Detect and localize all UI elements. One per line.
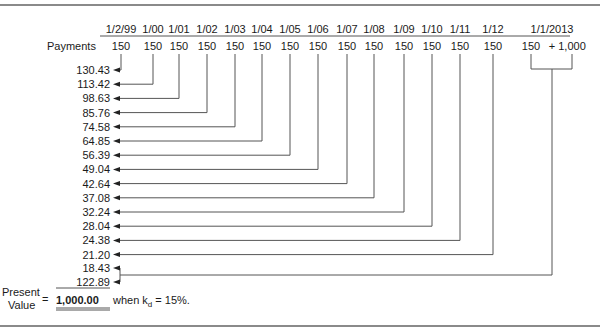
- date-label: 1/12: [482, 23, 503, 35]
- date-label: 1/09: [393, 23, 414, 35]
- pv-value: 64.85: [50, 135, 110, 147]
- date-label: 1/10: [421, 23, 442, 35]
- payment-amount: 150: [198, 40, 216, 52]
- date-label: 1/02: [196, 23, 217, 35]
- date-label: 1/2/99: [106, 23, 137, 35]
- payment-amount: 150: [484, 40, 502, 52]
- pv-value: 37.08: [50, 192, 110, 204]
- pv-value: 21.20: [50, 249, 110, 261]
- pv-value: 85.76: [50, 107, 110, 119]
- pv-final-coupon: 18.43: [50, 262, 110, 274]
- pv-value: 24.38: [50, 234, 110, 246]
- date-label: 1/07: [336, 23, 357, 35]
- date-label: 1/03: [224, 23, 245, 35]
- final-plus: +: [549, 40, 555, 52]
- date-label: 1/04: [251, 23, 272, 35]
- pv-final-principal: 122.89: [50, 276, 110, 288]
- rate-condition: when kd = 15%.: [113, 294, 190, 311]
- present-value-total: 1,000.00: [56, 294, 99, 306]
- payment-amount: 150: [281, 40, 299, 52]
- payment-amount: 150: [309, 40, 327, 52]
- present-value-label-1: Present: [2, 286, 40, 298]
- payment-amount: 150: [112, 40, 130, 52]
- pv-value: 28.04: [50, 220, 110, 232]
- final-principal: 1,000: [558, 40, 586, 52]
- pv-value: 42.64: [50, 178, 110, 190]
- pv-value: 32.24: [50, 206, 110, 218]
- pv-value: 49.04: [50, 163, 110, 175]
- pv-value: 130.43: [50, 64, 110, 76]
- final-coupon: 150: [522, 40, 540, 52]
- present-value-label-2: Value: [8, 299, 35, 311]
- pv-value: 74.58: [50, 121, 110, 133]
- date-label: 1/01: [168, 23, 189, 35]
- equals-sign: =: [42, 293, 48, 305]
- final-date: 1/1/2013: [531, 23, 574, 35]
- pv-value: 113.42: [50, 78, 110, 90]
- payment-amount: 150: [395, 40, 413, 52]
- date-label: 1/00: [142, 23, 163, 35]
- payment-amount: 150: [226, 40, 244, 52]
- payment-amount: 150: [451, 40, 469, 52]
- payment-amount: 150: [338, 40, 356, 52]
- payment-amount: 150: [253, 40, 271, 52]
- payment-amount: 150: [423, 40, 441, 52]
- date-label: 1/06: [307, 23, 328, 35]
- pv-value: 56.39: [50, 149, 110, 161]
- date-label: 1/08: [363, 23, 384, 35]
- date-label: 1/05: [279, 23, 300, 35]
- pv-value: 98.63: [50, 92, 110, 104]
- payment-amount: 150: [144, 40, 162, 52]
- payment-amount: 150: [170, 40, 188, 52]
- date-label: 1/11: [450, 23, 471, 35]
- payments-label: Payments: [47, 40, 96, 52]
- payment-amount: 150: [365, 40, 383, 52]
